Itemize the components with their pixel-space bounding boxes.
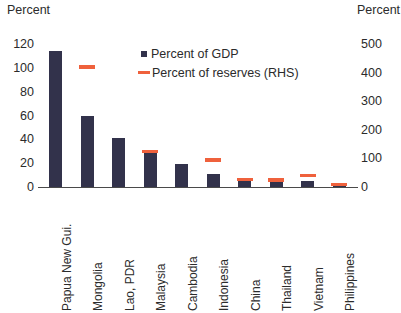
left-axis-title: Percent	[7, 3, 50, 17]
reserves-marker	[300, 174, 316, 177]
bar	[112, 138, 125, 187]
left-axis-tick: 120	[4, 38, 34, 50]
left-axis-tick: 80	[4, 86, 34, 98]
reserves-marker	[142, 150, 158, 153]
x-axis-category-label: Lao, PDR	[124, 259, 136, 311]
right-axis-tick: 400	[361, 67, 395, 79]
chart-legend: Percent of GDP Percent of reserves (RHS)	[141, 44, 299, 82]
legend-item-percent-of-gdp: Percent of GDP	[141, 44, 299, 63]
right-axis-title: Percent	[357, 3, 400, 17]
bar	[207, 174, 220, 187]
reserves-marker	[268, 178, 284, 181]
x-axis-category-label: Cambodia	[187, 256, 199, 311]
left-axis-tick: 0	[4, 181, 34, 193]
bar	[175, 164, 188, 187]
right-axis-tick: 300	[361, 95, 395, 107]
bar	[144, 151, 157, 187]
legend-label: Percent of reserves (RHS)	[152, 66, 299, 80]
right-axis-tick: 500	[361, 38, 395, 50]
left-axis-tick: 20	[4, 157, 34, 169]
right-axis-tick: 0	[361, 181, 395, 193]
left-axis-tick: 100	[4, 62, 34, 74]
reserves-marker	[205, 158, 221, 161]
reserves-marker	[237, 178, 253, 181]
left-axis-tick: 60	[4, 110, 34, 122]
x-axis-category-label: China	[250, 280, 262, 311]
legend-item-percent-of-reserves: Percent of reserves (RHS)	[141, 63, 299, 82]
legend-square-icon	[141, 51, 147, 57]
x-axis-category-label: Malaysia	[155, 264, 167, 311]
right-axis-tick: 100	[361, 152, 395, 164]
chart-container: Percent Percent 020406080100120 01002003…	[0, 0, 401, 313]
legend-dash-icon	[138, 71, 150, 74]
bar	[49, 51, 62, 187]
x-axis-category-label: Thailand	[281, 265, 293, 311]
x-axis-category-label: Papua New Gui.	[61, 224, 73, 311]
bar	[81, 116, 94, 188]
x-axis-category-label: Mongolia	[92, 262, 104, 311]
x-axis-line	[38, 187, 358, 189]
x-axis-category-label: Vietnam	[313, 267, 325, 311]
reserves-marker	[79, 65, 95, 68]
right-axis-tick: 200	[361, 124, 395, 136]
x-axis-category-label: Indonesia	[218, 259, 230, 311]
left-axis-tick: 40	[4, 133, 34, 145]
x-axis-category-label: Philippines	[344, 253, 356, 311]
legend-label: Percent of GDP	[151, 47, 239, 61]
